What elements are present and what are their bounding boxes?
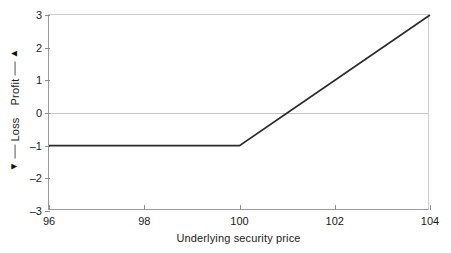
- y-axis-label-leader-left: [15, 144, 16, 158]
- y-tick-label-neg2: –2: [30, 172, 42, 184]
- y-tick-label-neg3: –3: [30, 205, 42, 217]
- x-tick-104: [430, 205, 431, 210]
- y-axis-label-profit: Profit: [9, 78, 21, 105]
- y-tick-label-neg1: –1: [30, 140, 42, 152]
- down-arrow-icon: ▼: [9, 161, 19, 171]
- y-tick-label-1: 1: [36, 74, 42, 86]
- payoff-line-svg: [49, 15, 430, 211]
- up-arrow-icon: ▲: [9, 48, 19, 58]
- y-axis-label-loss: Loss: [9, 117, 21, 141]
- y-tick-neg3: [45, 211, 50, 212]
- x-axis-label: Underlying security price: [48, 232, 429, 244]
- y-axis-label-leader-right: [15, 61, 16, 75]
- payoff-line: [49, 15, 430, 146]
- x-tick-label-104: 104: [421, 215, 439, 227]
- x-tick-label-100: 100: [230, 215, 248, 227]
- x-tick-label-98: 98: [138, 215, 150, 227]
- profit-loss-chart: ▼ Loss Profit ▲ 3 2 1 0 –1 –2 –3: [0, 0, 451, 253]
- y-tick-label-0: 0: [36, 107, 42, 119]
- y-tick-label-2: 2: [36, 42, 42, 54]
- y-tick-label-3: 3: [36, 9, 42, 21]
- y-axis-label-rotated: ▼ Loss Profit ▲: [9, 48, 21, 171]
- x-tick-label-102: 102: [326, 215, 344, 227]
- x-tick-label-96: 96: [43, 215, 55, 227]
- plot-inner: 3 2 1 0 –1 –2 –3 96 98 100 102 104: [49, 15, 428, 209]
- y-axis-label: ▼ Loss Profit ▲: [0, 0, 30, 219]
- plot-area: 3 2 1 0 –1 –2 –3 96 98 100 102 104: [48, 14, 429, 210]
